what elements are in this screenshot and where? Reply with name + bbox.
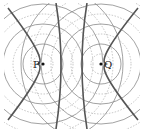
- hyperbola-inner-left: [56, 3, 61, 129]
- wavefront-circle-p: [0, 14, 93, 114]
- hyperbolas: [8, 3, 138, 129]
- wavefront-circle-q: [31, 0, 142, 134]
- wavefront-circle-q: [51, 14, 142, 114]
- wavefront-circle-p: [0, 4, 103, 124]
- focus-p-dot: [41, 62, 44, 65]
- focus-p-label: P: [33, 59, 40, 70]
- focus-q-label: Q: [104, 59, 112, 70]
- wavefront-circles: [0, 0, 142, 135]
- focus-q-dot: [99, 62, 102, 65]
- interference-diagram: P Q: [0, 0, 142, 135]
